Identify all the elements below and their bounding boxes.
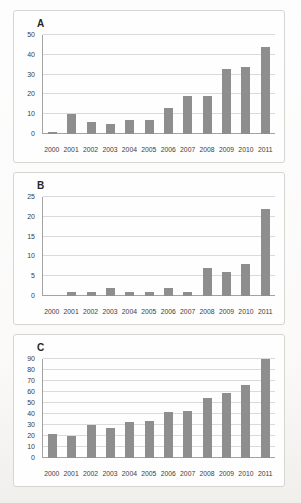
y-tick-label-5: 5 (15, 272, 35, 280)
y-axis-c: 0102030405060708090 (14, 359, 39, 458)
y-tick-label-10: 10 (15, 443, 35, 451)
y-tick-label-0: 0 (15, 130, 35, 138)
y-tick-label-20: 20 (15, 90, 35, 98)
bar-slot-2004 (120, 197, 139, 296)
x-tick-label-2009: 2009 (217, 308, 236, 315)
y-tick-label-25: 25 (15, 193, 35, 201)
chart-title-a: A (37, 18, 44, 29)
y-tick-label-30: 30 (15, 421, 35, 429)
bar-slot-2000 (43, 197, 62, 296)
bar-2004 (125, 120, 134, 134)
bar-2004 (125, 292, 134, 296)
figure-page: A 01020304050 20002001200220032004200520… (0, 0, 301, 503)
bar-slot-2010 (236, 35, 255, 134)
x-tick-label-2006: 2006 (159, 470, 178, 477)
x-tick-label-2005: 2005 (139, 146, 158, 153)
bar-2003 (106, 288, 115, 296)
bar-slot-2001 (62, 197, 81, 296)
bar-2009 (222, 393, 231, 458)
x-tick-label-2004: 2004 (120, 308, 139, 315)
bar-slot-2011 (256, 35, 275, 134)
y-axis-a: 01020304050 (14, 35, 39, 134)
x-tick-label-2002: 2002 (81, 308, 100, 315)
x-tick-label-2010: 2010 (236, 470, 255, 477)
x-tick-label-2004: 2004 (120, 470, 139, 477)
bar-2001 (67, 436, 76, 458)
x-axis-c: 2000200120022003200420052006200720082009… (42, 470, 275, 477)
bar-slot-2001 (62, 35, 81, 134)
bar-slot-2001 (62, 359, 81, 458)
bar-2010 (241, 385, 250, 458)
chart-title-c: C (37, 342, 44, 353)
bar-slot-2008 (198, 35, 217, 134)
bars (43, 35, 275, 134)
y-tick-label-20: 20 (15, 432, 35, 440)
bar-slot-2011 (256, 359, 275, 458)
bar-slot-2007 (178, 35, 197, 134)
bar-2000 (48, 132, 57, 134)
bar-2008 (203, 398, 212, 459)
x-tick-label-2011: 2011 (256, 308, 275, 315)
x-axis-a: 2000200120022003200420052006200720082009… (42, 146, 275, 153)
bar-2010 (241, 264, 250, 296)
x-tick-label-2007: 2007 (178, 146, 197, 153)
x-tick-label-2009: 2009 (217, 470, 236, 477)
bar-slot-2011 (256, 197, 275, 296)
x-tick-label-2011: 2011 (256, 470, 275, 477)
x-tick-label-2005: 2005 (139, 470, 158, 477)
x-tick-label-2002: 2002 (81, 470, 100, 477)
bar-slot-2005 (140, 197, 159, 296)
y-tick-label-50: 50 (15, 31, 35, 39)
chart-panel-a: A 01020304050 20002001200220032004200520… (13, 10, 285, 163)
bar-slot-2005 (140, 359, 159, 458)
x-tick-label-2000: 2000 (42, 146, 61, 153)
bar-2002 (87, 425, 96, 458)
bar-2005 (145, 421, 154, 458)
x-tick-label-2006: 2006 (159, 308, 178, 315)
bar-slot-2002 (82, 359, 101, 458)
y-tick-label-0: 0 (15, 292, 35, 300)
x-tick-label-2008: 2008 (197, 146, 216, 153)
x-tick-label-2003: 2003 (100, 146, 119, 153)
bar-slot-2003 (101, 197, 120, 296)
bar-2006 (164, 288, 173, 296)
y-tick-label-90: 90 (15, 355, 35, 363)
bar-slot-2002 (82, 197, 101, 296)
y-tick-label-10: 10 (15, 252, 35, 260)
y-tick-label-40: 40 (15, 410, 35, 418)
x-tick-label-2005: 2005 (139, 308, 158, 315)
bar-2003 (106, 124, 115, 134)
bar-2011 (261, 209, 270, 296)
x-tick-label-2002: 2002 (81, 146, 100, 153)
y-tick-label-80: 80 (15, 366, 35, 374)
bar-slot-2008 (198, 359, 217, 458)
x-tick-label-2001: 2001 (61, 308, 80, 315)
x-tick-label-2008: 2008 (197, 470, 216, 477)
x-tick-label-2001: 2001 (61, 470, 80, 477)
bar-2005 (145, 120, 154, 134)
bar-2007 (183, 96, 192, 134)
y-tick-label-0: 0 (15, 454, 35, 462)
plot-area-a (42, 35, 275, 134)
bar-slot-2006 (159, 359, 178, 458)
bar-slot-2010 (236, 359, 255, 458)
bar-2001 (67, 292, 76, 296)
bar-2010 (241, 67, 250, 134)
plot-area-c (42, 359, 275, 458)
y-tick-label-40: 40 (15, 51, 35, 59)
bar-slot-2003 (101, 359, 120, 458)
bar-2007 (183, 411, 192, 458)
plot-area-b (42, 197, 275, 296)
bars (43, 197, 275, 296)
bar-slot-2009 (217, 35, 236, 134)
bar-slot-2003 (101, 35, 120, 134)
y-tick-label-30: 30 (15, 71, 35, 79)
bar-2000 (48, 434, 57, 458)
bar-slot-2006 (159, 197, 178, 296)
bar-2008 (203, 96, 212, 134)
bar-slot-2009 (217, 359, 236, 458)
x-tick-label-2008: 2008 (197, 308, 216, 315)
bar-2002 (87, 122, 96, 134)
bar-slot-2009 (217, 197, 236, 296)
bar-slot-2008 (198, 197, 217, 296)
